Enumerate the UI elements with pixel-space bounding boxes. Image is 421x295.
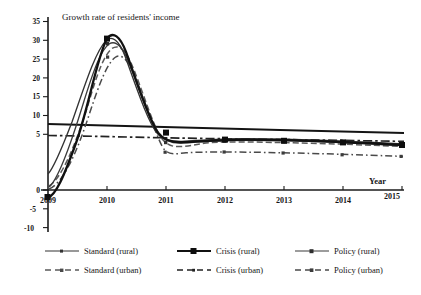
series-standard-rural [48, 38, 403, 174]
legend-label-policy-urban: Policy (urban) [334, 265, 383, 275]
x-tick-label-2010: 2010 [87, 196, 127, 205]
legend-item-standard-rural[interactable]: Standard (rural) [45, 246, 138, 256]
legend-label-standard-urban: Standard (urban) [84, 265, 141, 275]
legend-item-crisis-rural[interactable]: Crisis (rural) [177, 246, 260, 256]
legend-key-standard-urban-icon [45, 265, 79, 275]
legend-key-crisis-urban-icon [177, 265, 211, 275]
y-tick-label-0: 0 [18, 186, 40, 195]
x-tick-label-2013: 2013 [264, 196, 304, 205]
series-crisis-rural-baseline [48, 124, 404, 133]
x-axis-title: Year [369, 176, 386, 186]
chart-figure: Growth rate of residents' income Year 35… [0, 0, 421, 295]
y-tick-label-10: 10 [18, 111, 40, 120]
x-tick-label-2015: 2015 [372, 192, 412, 201]
y-tick-label-15: 15 [18, 92, 40, 101]
series-crisis-rural [48, 35, 403, 198]
series-policy-urban [49, 56, 403, 189]
y-tick-label-minus5: -5 [14, 205, 36, 214]
legend-key-standard-rural-icon [45, 246, 79, 256]
x-tick-label-2014: 2014 [323, 196, 363, 205]
y-tick-label-25: 25 [18, 55, 40, 64]
legend-item-standard-urban[interactable]: Standard (urban) [45, 265, 141, 275]
legend-item-policy-rural[interactable]: Policy (rural) [295, 246, 380, 256]
legend-item-crisis-urban[interactable]: Crisis (urban) [177, 265, 263, 275]
y-tick-label-35: 35 [18, 17, 40, 26]
legend-label-policy-rural: Policy (rural) [334, 246, 380, 256]
legend-label-standard-rural: Standard (rural) [84, 246, 138, 256]
y-tick-label-30: 30 [18, 36, 40, 45]
legend-key-crisis-rural-icon [177, 246, 211, 256]
legend-item-policy-urban[interactable]: Policy (urban) [295, 265, 383, 275]
legend-label-crisis-urban: Crisis (urban) [216, 265, 263, 275]
chart-title: Growth rate of residents' income [62, 12, 180, 22]
series-policy-rural [49, 43, 403, 187]
y-tick-label-20: 20 [18, 74, 40, 83]
chart-legend: Standard (rural) Crisis (rural) Policy (… [0, 242, 421, 290]
x-tick-label-2009: 2009 [28, 196, 68, 205]
legend-label-crisis-rural: Crisis (rural) [216, 246, 260, 256]
series-standard-urban [49, 47, 403, 186]
legend-key-policy-rural-icon [295, 246, 329, 256]
y-tick-label-5: 5 [18, 130, 40, 139]
x-tick-label-2012: 2012 [205, 196, 245, 205]
legend-key-policy-urban-icon [295, 265, 329, 275]
y-tick-label-minus10: -10 [12, 224, 34, 233]
x-tick-label-2011: 2011 [146, 196, 186, 205]
